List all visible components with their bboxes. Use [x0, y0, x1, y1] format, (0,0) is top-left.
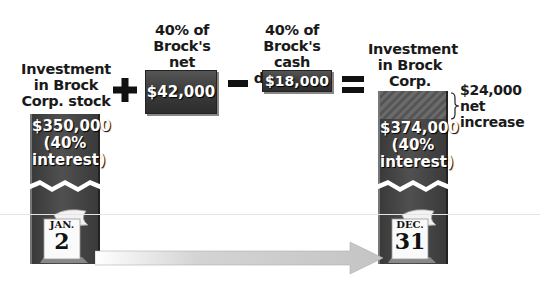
- dividends-box: $18,000: [262, 70, 332, 92]
- net-increase-label: $24,000 net increase: [460, 82, 540, 130]
- timeline-arrow-icon: [95, 240, 385, 276]
- minus-icon: [228, 80, 248, 88]
- increase-hatched-area: [380, 91, 446, 119]
- start-value: $350,000: [32, 118, 98, 135]
- start-date: JAN. 2: [44, 220, 80, 252]
- end-date: DEC. 31: [392, 220, 428, 252]
- end-value: $374,000: [380, 120, 446, 137]
- start-investment-label: Investment in Brock Corp. stock: [20, 61, 112, 109]
- plus-icon: [113, 78, 137, 102]
- net-income-box: $42,000: [145, 70, 217, 114]
- column-break-icon: [376, 178, 450, 192]
- equals-icon: [342, 76, 364, 94]
- divider-line: [0, 214, 540, 215]
- column-break-icon: [28, 178, 102, 192]
- brace-icon: [450, 92, 460, 120]
- increase-value: $24,000: [460, 82, 540, 98]
